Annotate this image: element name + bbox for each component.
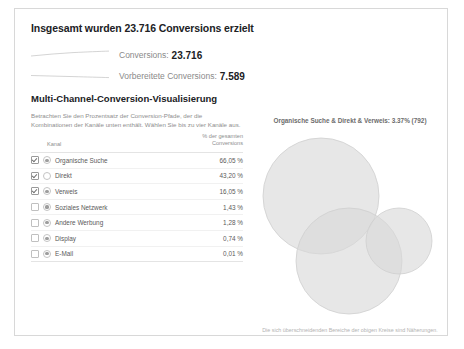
metric-row-conversions: Conversions: 23.716 xyxy=(31,47,202,63)
channel-radio-icon[interactable] xyxy=(43,203,51,211)
venn-title: Organische Suche & Direkt & Verweis: 3.3… xyxy=(251,117,449,124)
percent-cell: 0,01 % xyxy=(169,246,243,262)
table-row[interactable]: Direkt43,20 % xyxy=(31,168,243,184)
channel-cell-content: Direkt xyxy=(31,172,169,180)
table-row[interactable]: E-Mail0,01 % xyxy=(31,246,243,262)
channel-cell: Display xyxy=(31,230,169,246)
channel-label: E-Mail xyxy=(55,250,73,257)
channel-label: Soziales Netzwerk xyxy=(55,204,108,211)
channel-radio-icon[interactable] xyxy=(43,219,51,227)
page-title: Insgesamt wurden 23.716 Conversions erzi… xyxy=(31,22,254,34)
metric-value-prepared-conversions: 7.589 xyxy=(220,71,245,82)
channel-table-body: Organische Suche66,05 %Direkt43,20 %Verw… xyxy=(31,153,243,262)
channel-label: Organische Suche xyxy=(55,157,108,164)
table-header-row: Kanal % der gesamten Conversions xyxy=(31,133,243,153)
percent-cell: 16,05 % xyxy=(169,184,243,200)
venn-panel: Organische Suche & Direkt & Verweis: 3.3… xyxy=(251,117,449,335)
channel-checkbox-icon[interactable] xyxy=(31,234,39,242)
channel-cell: Organische Suche xyxy=(31,153,169,169)
section-description: Betrachten Sie den Prozentsatz der Conve… xyxy=(31,111,243,129)
channel-cell: Soziales Netzwerk xyxy=(31,199,169,215)
percent-cell: 66,05 % xyxy=(169,153,243,169)
column-header-percent-line2: Conversions xyxy=(169,140,243,147)
sparkline-icon xyxy=(31,49,109,61)
channel-cell-content: Display xyxy=(31,234,169,242)
channel-checkbox-icon[interactable] xyxy=(31,203,39,211)
venn-diagram xyxy=(251,131,449,317)
channel-cell: Andere Werbung xyxy=(31,215,169,231)
channel-cell-content: E-Mail xyxy=(31,250,169,258)
column-header-percent-line1: % der gesamten xyxy=(169,133,243,140)
channel-label: Verweis xyxy=(55,188,77,195)
percent-cell: 0,74 % xyxy=(169,230,243,246)
section-title: Multi-Channel-Conversion-Visualisierung xyxy=(31,93,217,104)
channel-checkbox-icon[interactable] xyxy=(31,156,39,164)
metric-row-prepared-conversions: Vorbereitete Conversions: 7.589 xyxy=(31,68,245,84)
metric-label-prepared-conversions: Vorbereitete Conversions: xyxy=(119,71,217,81)
channel-label: Display xyxy=(55,235,76,242)
percent-cell: 1,43 % xyxy=(169,199,243,215)
channel-cell-content: Verweis xyxy=(31,187,169,195)
table-row[interactable]: Andere Werbung1,28 % xyxy=(31,215,243,231)
channel-radio-icon[interactable] xyxy=(43,187,51,195)
channel-checkbox-icon[interactable] xyxy=(31,172,39,180)
percent-cell: 43,20 % xyxy=(169,168,243,184)
channel-checkbox-icon[interactable] xyxy=(31,250,39,258)
channel-cell-content: Organische Suche xyxy=(31,156,169,164)
channel-checkbox-icon[interactable] xyxy=(31,219,39,227)
column-header-channel: Kanal xyxy=(31,133,169,153)
venn-footnote: Die sich überschneidenden Bereiche der o… xyxy=(251,327,449,333)
sparkline-icon xyxy=(31,70,109,82)
venn-circle[interactable] xyxy=(366,208,432,274)
channel-cell-content: Andere Werbung xyxy=(31,219,169,227)
venn-svg xyxy=(251,131,449,317)
column-header-percent: % der gesamten Conversions xyxy=(169,133,243,153)
percent-cell: 1,28 % xyxy=(169,215,243,231)
multi-channel-report-card: Insgesamt wurden 23.716 Conversions erzi… xyxy=(14,8,448,336)
channel-radio-icon[interactable] xyxy=(43,234,51,242)
table-row[interactable]: Soziales Netzwerk1,43 % xyxy=(31,199,243,215)
channel-label: Andere Werbung xyxy=(55,219,103,226)
metric-label-conversions: Conversions: xyxy=(119,50,169,60)
table-row[interactable]: Organische Suche66,05 % xyxy=(31,153,243,169)
table-row[interactable]: Display0,74 % xyxy=(31,230,243,246)
channel-radio-icon[interactable] xyxy=(43,172,51,180)
channel-radio-icon[interactable] xyxy=(43,156,51,164)
metric-value-conversions: 23.716 xyxy=(172,50,203,61)
channel-cell-content: Soziales Netzwerk xyxy=(31,203,169,211)
channel-label: Direkt xyxy=(55,172,72,179)
channel-radio-icon[interactable] xyxy=(43,250,51,258)
channel-cell: Direkt xyxy=(31,168,169,184)
channel-checkbox-icon[interactable] xyxy=(31,187,39,195)
table-row[interactable]: Verweis16,05 % xyxy=(31,184,243,200)
channel-cell: E-Mail xyxy=(31,246,169,262)
screenshot-root: Insgesamt wurden 23.716 Conversions erzi… xyxy=(0,0,464,349)
channel-cell: Verweis xyxy=(31,184,169,200)
channel-table: Kanal % der gesamten Conversions Organis… xyxy=(31,133,243,262)
